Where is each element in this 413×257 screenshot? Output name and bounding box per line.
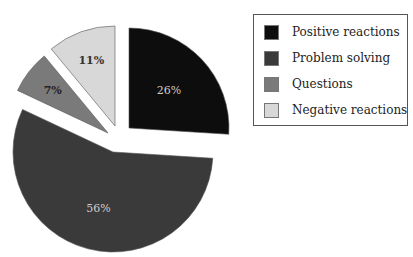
legend-swatch [264,77,279,92]
legend-item-problem-solving: Problem solving [264,50,390,66]
slice-label: 11% [78,54,104,67]
legend-item-negative-reactions: Negative reactions [264,102,407,118]
slice-label: 26% [157,84,181,97]
pie-slice-positive-reactions [129,28,229,134]
slice-label: 7% [44,84,63,97]
legend-swatch [264,25,279,40]
legend-label: Questions [292,77,353,91]
legend-label: Positive reactions [292,25,400,39]
legend: Positive reactions Problem solving Quest… [253,14,408,126]
legend-label: Problem solving [292,51,390,65]
legend-item-questions: Questions [264,76,353,92]
legend-swatch [264,103,279,118]
legend-swatch [264,51,279,66]
slice-label: 56% [86,202,110,215]
legend-item-positive-reactions: Positive reactions [264,24,400,40]
legend-label: Negative reactions [292,103,407,117]
